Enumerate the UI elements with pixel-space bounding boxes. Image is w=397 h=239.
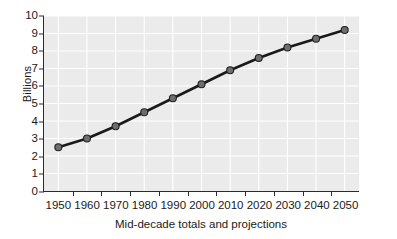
y-tick-mark	[39, 192, 44, 193]
y-tick-mark	[39, 156, 44, 157]
y-tick-mark	[39, 104, 44, 105]
x-tick-label: 2020	[247, 200, 273, 212]
x-tick-mark	[73, 191, 74, 196]
y-tick-mark	[39, 139, 44, 140]
x-tick-mark	[159, 191, 160, 196]
y-tick-mark	[39, 86, 44, 87]
x-tick-label: 1960	[74, 200, 100, 212]
x-tick-mark	[245, 191, 246, 196]
x-tick-label: 2040	[304, 200, 330, 212]
y-tick-label: 7	[32, 63, 38, 75]
x-tick-mark	[188, 191, 189, 196]
x-tick-label: 1950	[46, 200, 72, 212]
data-point-marker	[83, 135, 90, 142]
x-tick-label: 2050	[333, 200, 359, 212]
x-tick-label: 1990	[160, 200, 186, 212]
y-tick-mark	[39, 16, 44, 17]
population-growth-chart: Billions 0123456789101950196019701980199…	[0, 0, 397, 239]
y-tick-mark	[39, 68, 44, 69]
x-tick-label: 1970	[103, 200, 129, 212]
data-point-marker	[55, 144, 62, 151]
data-point-marker	[169, 95, 176, 102]
x-tick-label: 2030	[275, 200, 301, 212]
y-tick-label: 4	[32, 116, 38, 128]
data-point-marker	[227, 67, 234, 74]
x-tick-mark	[274, 191, 275, 196]
x-tick-label: 2010	[218, 200, 244, 212]
y-tick-mark	[39, 33, 44, 34]
y-tick-label: 1	[32, 169, 38, 181]
y-tick-label: 2	[32, 151, 38, 163]
y-tick-mark	[39, 174, 44, 175]
x-tick-mark	[216, 191, 217, 196]
y-tick-mark	[39, 51, 44, 52]
y-tick-mark	[39, 121, 44, 122]
data-point-marker	[313, 35, 320, 42]
series-line	[58, 30, 344, 147]
x-axis-title: Mid-decade totals and projections	[43, 218, 359, 230]
y-tick-label: 6	[32, 81, 38, 93]
y-tick-label: 10	[25, 10, 38, 22]
data-point-marker	[141, 109, 148, 116]
plot-area: 0123456789101950196019701980199020002010…	[43, 16, 359, 192]
x-tick-mark	[101, 191, 102, 196]
x-tick-mark	[130, 191, 131, 196]
y-tick-label: 0	[32, 186, 38, 198]
x-tick-label: 2000	[189, 200, 215, 212]
data-series-line	[44, 16, 359, 191]
y-tick-label: 5	[32, 98, 38, 110]
x-tick-label: 1980	[132, 200, 158, 212]
data-point-marker	[341, 27, 348, 34]
data-point-marker	[284, 44, 291, 51]
data-point-marker	[112, 123, 119, 130]
x-tick-mark	[331, 191, 332, 196]
x-tick-mark	[303, 191, 304, 196]
y-tick-label: 9	[32, 28, 38, 40]
data-point-marker	[198, 81, 205, 88]
data-point-marker	[255, 55, 262, 62]
y-tick-label: 8	[32, 45, 38, 57]
y-tick-label: 3	[32, 133, 38, 145]
